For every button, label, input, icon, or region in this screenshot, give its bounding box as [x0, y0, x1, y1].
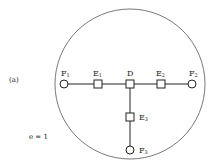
panel-label: (a): [9, 76, 19, 84]
label-f2: F2: [189, 69, 198, 78]
node-e3: [126, 113, 134, 121]
label-d: D: [127, 69, 133, 78]
nodes: [60, 80, 196, 154]
node-d: [126, 80, 134, 88]
label-f3: F3: [139, 146, 148, 155]
label-f1: F1: [61, 69, 70, 78]
node-f3: [126, 146, 134, 154]
label-e1: E1: [93, 69, 102, 78]
node-e2: [157, 80, 165, 88]
label-e3: E3: [139, 113, 148, 122]
tree-diagram: F1 E1 D E2 F2 E3 F3 (a) e = 1: [0, 0, 215, 167]
parameter-text: e = 1: [29, 133, 48, 141]
label-e2: E2: [156, 69, 165, 78]
node-e1: [94, 80, 102, 88]
node-f2: [188, 80, 196, 88]
node-f1: [60, 80, 68, 88]
